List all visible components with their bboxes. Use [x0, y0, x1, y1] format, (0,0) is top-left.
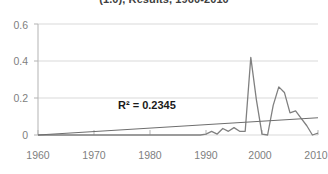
- trendline: [38, 118, 318, 135]
- chart-container: (1.0), Results, 1960-2010 0.6 0.4 0.2 0 …: [0, 0, 328, 174]
- axes: [34, 24, 318, 135]
- gridlines: [38, 24, 318, 135]
- data-series-line: [38, 57, 318, 135]
- plot-area: [0, 0, 328, 174]
